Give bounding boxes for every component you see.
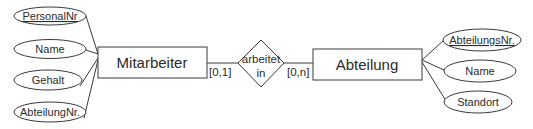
attribute-label: Name: [35, 43, 64, 55]
relationship-label-line2: in: [257, 67, 266, 79]
attribute-name-abteilung[interactable]: Name: [444, 60, 516, 82]
attribute-label: PersonalNr: [22, 10, 77, 22]
relationship-label-line1: arbeitet: [242, 53, 281, 65]
attribute-label: AbteilungNr.: [20, 106, 80, 118]
mitarbeiter-attribute-connectors: [80, 16, 98, 118]
attribute-gehalt[interactable]: Gehalt: [14, 70, 82, 90]
relationship-arbeitet-in[interactable]: arbeitet in: [238, 40, 284, 87]
cardinality-left: [0,1]: [209, 66, 231, 78]
attribute-label: Standort: [457, 96, 499, 108]
attribute-label: Name: [465, 65, 494, 77]
entity-mitarbeiter[interactable]: Mitarbeiter: [98, 47, 207, 78]
attribute-standort[interactable]: Standort: [444, 91, 512, 113]
attribute-abteilungsnr[interactable]: AbteilungsNr.: [443, 29, 521, 51]
attribute-label: Gehalt: [32, 74, 64, 86]
entity-label: Abteilung: [336, 56, 399, 73]
attribute-label: AbteilungsNr.: [449, 34, 514, 46]
entity-abteilung[interactable]: Abteilung: [313, 49, 422, 80]
abteilung-attribute-connectors: [422, 40, 446, 101]
attribute-abteilungnr[interactable]: AbteilungNr.: [14, 102, 86, 122]
er-diagram: PersonalNr Name Gehalt AbteilungNr. Mita…: [0, 0, 533, 129]
attribute-personalnr[interactable]: PersonalNr: [14, 7, 86, 25]
entity-label: Mitarbeiter: [117, 54, 188, 71]
attribute-name-mitarbeiter[interactable]: Name: [14, 40, 86, 59]
cardinality-right: [0,n]: [287, 66, 309, 78]
